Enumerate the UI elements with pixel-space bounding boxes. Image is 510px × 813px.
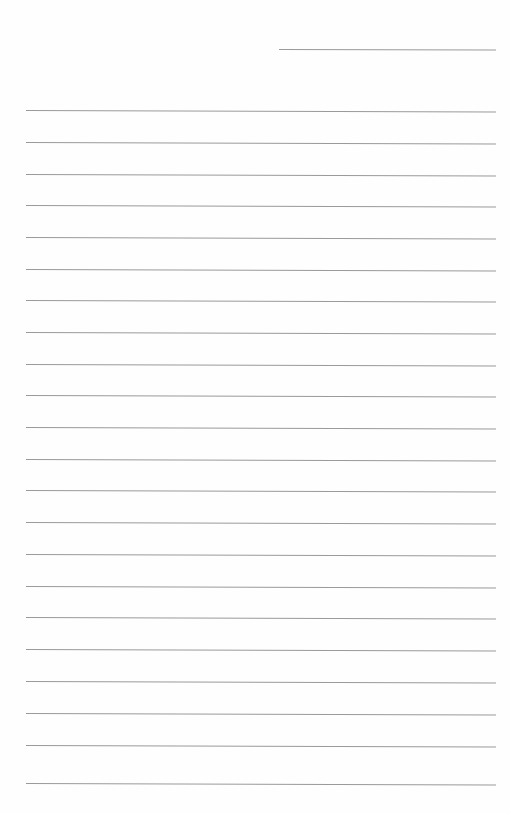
ruled-line — [26, 586, 496, 588]
ruled-line — [26, 427, 496, 429]
ruled-line — [26, 713, 496, 715]
ruled-line — [26, 745, 496, 747]
lined-paper-page — [0, 0, 510, 813]
ruled-line — [26, 681, 496, 683]
ruled-line — [26, 332, 496, 334]
ruled-line — [26, 142, 496, 144]
ruled-line — [26, 490, 496, 492]
ruled-line — [26, 300, 496, 302]
ruled-line — [26, 364, 496, 366]
ruled-line — [26, 617, 496, 619]
ruled-line — [26, 395, 496, 397]
ruled-line — [26, 522, 496, 524]
header-rule — [279, 49, 496, 50]
ruled-line — [26, 649, 496, 651]
ruled-line — [26, 269, 496, 271]
ruled-line — [26, 783, 496, 785]
ruled-line — [26, 205, 496, 207]
ruled-line — [26, 110, 496, 112]
ruled-line — [26, 554, 496, 556]
ruled-line — [26, 459, 496, 461]
ruled-line — [26, 174, 496, 176]
ruled-line — [26, 237, 496, 239]
